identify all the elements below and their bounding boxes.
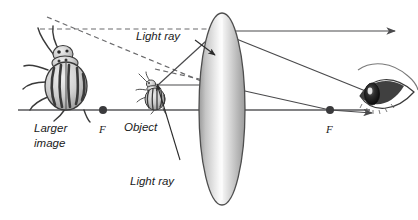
ray-diagram-canvas: Larger image F F Object Light ray Light …	[0, 0, 418, 220]
focal-point-right	[326, 106, 334, 114]
eye-illustration	[358, 64, 418, 114]
light-ray-bottom-label: Light ray	[130, 175, 175, 187]
light-ray-top-label: Light ray	[136, 30, 181, 42]
light-ray-lens-to-eye-upper	[224, 34, 368, 92]
focal-point-left-label: F	[98, 123, 106, 135]
focal-point-right-label: F	[325, 123, 333, 135]
eye-highlight	[368, 88, 373, 95]
object-label: Object	[124, 121, 158, 133]
eye-iris	[365, 83, 380, 105]
large-beetle-image	[23, 26, 90, 122]
larger-image-label-line2: image	[34, 137, 65, 149]
lens-ray-diagram-figure: Larger image F F Object Light ray Light …	[0, 0, 418, 220]
small-beetle-object	[136, 72, 166, 114]
focal-point-left	[99, 106, 107, 114]
larger-image-label-line1: Larger	[34, 122, 68, 134]
light-ray-bottom-leader	[157, 84, 180, 160]
